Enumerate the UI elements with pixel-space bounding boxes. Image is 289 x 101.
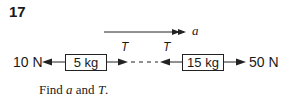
mass-5kg-box: 5 kg <box>65 54 107 71</box>
prompt-text: Find <box>39 82 66 97</box>
question-prompt: Find a and T. <box>39 82 108 98</box>
prompt-text: and <box>73 82 98 97</box>
prompt-text: . <box>105 82 108 97</box>
acceleration-label: a <box>192 23 199 39</box>
left-force-label: 10 N <box>13 54 43 70</box>
tension-label-right: T <box>163 40 170 54</box>
mass-15kg-box: 15 kg <box>182 54 224 71</box>
right-force-label: 50 N <box>249 54 279 70</box>
tension-label-left: T <box>121 40 128 54</box>
